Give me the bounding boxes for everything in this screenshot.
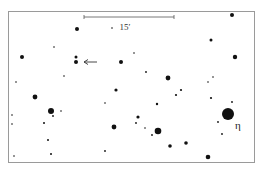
star: [43, 122, 45, 124]
star: [133, 52, 135, 54]
star: [48, 108, 54, 114]
star: [75, 27, 79, 31]
star: [114, 88, 117, 91]
star: [104, 150, 106, 152]
star: [74, 60, 78, 64]
star: [33, 95, 38, 100]
star-chart: 15′ η: [0, 0, 263, 172]
star: [53, 46, 55, 48]
star: [144, 127, 146, 129]
star: [180, 89, 182, 91]
star: [221, 133, 223, 135]
star: [184, 141, 188, 145]
star: [210, 97, 212, 99]
star: [112, 125, 117, 130]
star: [111, 27, 113, 29]
star: [135, 122, 137, 124]
star: [156, 103, 158, 105]
star: [50, 153, 52, 155]
star: [222, 108, 234, 120]
star: [230, 13, 234, 17]
chart-frame: [9, 12, 255, 163]
star: [52, 115, 54, 117]
star: [233, 55, 237, 59]
star: [20, 55, 24, 59]
star: [15, 81, 17, 83]
star-field: [11, 13, 237, 159]
star: [168, 144, 172, 148]
star: [60, 110, 62, 112]
star: [217, 121, 219, 123]
star-label-eta: η: [235, 119, 241, 131]
star: [63, 75, 65, 77]
star-labels: η: [235, 119, 241, 131]
star: [166, 76, 171, 81]
star: [11, 123, 13, 125]
star: [155, 128, 162, 135]
star: [212, 76, 214, 78]
star: [206, 155, 211, 160]
target-arrow-icon: [84, 60, 97, 65]
star: [151, 134, 153, 136]
scale-bar: 15′: [84, 15, 174, 32]
star: [207, 81, 209, 83]
star: [47, 139, 49, 141]
scale-bar-label: 15′: [120, 22, 131, 32]
star: [13, 155, 15, 157]
star: [75, 56, 78, 59]
star: [231, 101, 233, 103]
star: [210, 39, 213, 42]
star: [145, 71, 147, 73]
star: [136, 115, 139, 118]
star: [119, 60, 123, 64]
star: [104, 102, 106, 104]
star: [11, 114, 13, 116]
star: [175, 94, 177, 96]
